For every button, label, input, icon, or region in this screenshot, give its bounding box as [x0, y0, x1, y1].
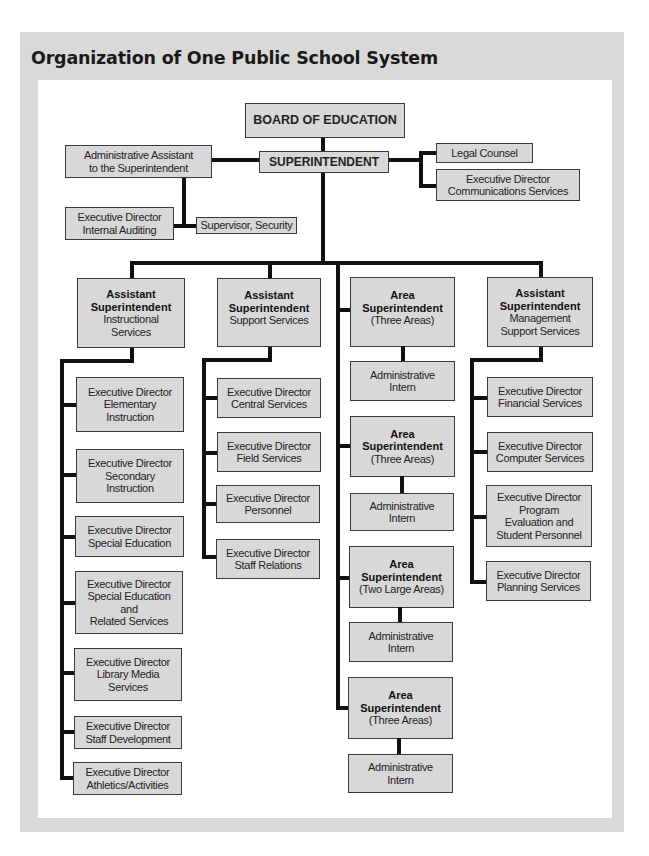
label: Secondary [105, 470, 155, 483]
area-supt-1: Area Superintendent (Three Areas) [350, 277, 455, 347]
connector [202, 451, 218, 455]
connector [60, 473, 76, 477]
label: Executive Director [88, 386, 172, 399]
connector [419, 151, 423, 187]
label: Supervisor, Security [201, 219, 293, 232]
ed-financial-services: Executive Director Financial Services [487, 377, 593, 417]
label: Management [509, 312, 570, 325]
label: Executive Director [498, 440, 582, 453]
label: Superintendent [91, 301, 172, 314]
ed-special-education-related: Executive Director Special Education and… [75, 571, 183, 634]
connector [202, 358, 206, 558]
label: Athletics/Activities [86, 779, 168, 792]
label: Instruction [106, 482, 153, 495]
supervisor-security: Supervisor, Security [196, 217, 297, 234]
label: Assistant [106, 288, 156, 301]
label: Superintendent [360, 702, 441, 715]
label: Administrative [370, 500, 435, 513]
label: Executive Director [86, 656, 170, 669]
label: Superintendent [362, 440, 443, 453]
connector [336, 576, 350, 580]
label: (Two Large Areas) [359, 583, 444, 596]
label: to the Superintendent [89, 162, 188, 175]
label: Central Services [231, 398, 307, 411]
area-supt-4: Area Superintendent (Three Areas) [348, 677, 453, 739]
ed-library-media: Executive Director Library Media Service… [74, 648, 182, 701]
connector [419, 184, 436, 188]
ed-central-services: Executive Director Central Services [217, 378, 321, 418]
legal-counsel: Legal Counsel [436, 143, 533, 163]
ed-special-education: Executive Director Special Education [75, 516, 184, 557]
ed-program-evaluation: Executive Director Program Evaluation an… [486, 485, 592, 547]
connector [60, 776, 74, 780]
label: Executive Director [87, 578, 171, 591]
connector [470, 580, 486, 584]
connector [182, 177, 186, 227]
label: Executive Director [466, 173, 550, 186]
label: Support Services [230, 314, 309, 327]
connector [397, 738, 401, 755]
label: Elementary [104, 398, 157, 411]
label: Legal Counsel [451, 147, 517, 160]
connector [321, 173, 325, 263]
label: Services [111, 326, 151, 339]
ed-personnel: Executive Director Personnel [216, 485, 320, 523]
label: and [120, 603, 137, 616]
label: Student Personnel [496, 529, 581, 542]
asst-supt-management: Assistant Superintendent Management Supp… [487, 277, 593, 347]
label: (Three Areas) [371, 453, 434, 466]
label: Financial Services [498, 397, 582, 410]
label: Planning Services [497, 581, 580, 594]
label: Field Services [237, 452, 302, 465]
connector [268, 261, 272, 279]
label: Computer Services [496, 452, 584, 465]
label: (Three Areas) [371, 314, 434, 327]
connector [336, 444, 350, 448]
label: Executive Director [226, 492, 310, 505]
label: Assistant [244, 289, 294, 302]
administrative-intern-1: Administrative Intern [350, 361, 455, 401]
label: Support Services [501, 325, 580, 338]
label: Executive Director [86, 766, 170, 779]
label: Executive Director [88, 457, 172, 470]
label: Intern [388, 642, 414, 655]
label: Intern [387, 774, 413, 787]
ed-field-services: Executive Director Field Services [217, 432, 321, 472]
label: Intern [389, 512, 415, 525]
label: Intern [389, 381, 415, 394]
area-supt-3: Area Superintendent (Two Large Areas) [349, 546, 454, 608]
connector [60, 359, 64, 779]
administrative-intern-4: Administrative Intern [348, 754, 453, 793]
label: Administrative [368, 761, 433, 774]
connector [470, 515, 486, 519]
label: Executive Director [497, 569, 581, 582]
asst-supt-support: Assistant Superintendent Support Service… [217, 278, 321, 347]
label: Executive Director [88, 524, 172, 537]
communications-services: Executive Director Communications Servic… [436, 169, 580, 201]
connector [212, 158, 260, 162]
label: BOARD OF EDUCATION [253, 114, 397, 127]
connector [60, 730, 75, 734]
ed-computer-services: Executive Director Computer Services [487, 432, 593, 472]
connector [419, 151, 436, 155]
connector [130, 261, 134, 279]
label: Internal Auditing [83, 224, 157, 237]
connector [400, 476, 404, 493]
label: Executive Director [227, 440, 311, 453]
connector [398, 607, 402, 623]
connector [389, 158, 419, 162]
label: Special Education [88, 537, 171, 550]
administrative-intern-3: Administrative Intern [349, 622, 453, 662]
label: Staff Development [85, 733, 170, 746]
connector [202, 396, 218, 400]
ed-elementary-instruction: Executive Director Elementary Instructio… [76, 377, 184, 432]
label: Executive Director [226, 547, 310, 560]
connector [60, 601, 75, 605]
connector [470, 396, 487, 400]
connector [470, 450, 487, 454]
label: Executive Director [78, 211, 162, 224]
connector [60, 671, 75, 675]
label: Executive Director [227, 386, 311, 399]
area-supt-2: Area Superintendent (Three Areas) [350, 416, 455, 477]
connector [174, 224, 196, 228]
